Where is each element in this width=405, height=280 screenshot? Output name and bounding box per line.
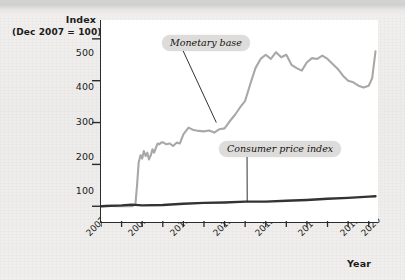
y-tick-label-500: 500 — [58, 47, 94, 58]
monetary-base-leader-line — [179, 42, 216, 123]
figure: Index (Dec 2007 = 100) 500 400 300 200 1… — [0, 0, 405, 280]
y-tick-label-200: 200 — [58, 151, 94, 162]
cpi-callout: Consumer price index — [219, 141, 341, 157]
monetary-base-series — [101, 51, 376, 206]
cpi-series — [101, 196, 376, 206]
y-tick-label-300: 300 — [58, 116, 94, 127]
x-axis-ticks — [101, 221, 379, 231]
y-axis-ticks — [92, 20, 102, 223]
y-axis-title-line1: Index — [12, 14, 96, 26]
y-tick-label-400: 400 — [58, 81, 94, 92]
y-axis-title-line2: (Dec 2007 = 100) — [12, 26, 96, 38]
monetary-base-callout: Monetary base — [162, 35, 250, 51]
monetary-base-line — [101, 51, 376, 206]
x-axis-title: Year — [347, 258, 371, 270]
y-tick-label-100: 100 — [58, 185, 94, 196]
cpi-line — [101, 196, 376, 206]
y-axis-title: Index (Dec 2007 = 100) — [12, 14, 96, 38]
